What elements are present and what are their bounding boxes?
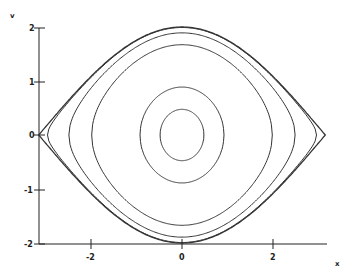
ytick-label: 0 (29, 131, 35, 140)
y-ticks: 2 1 0 -1 -2 (24, 24, 45, 249)
ytick-label: -2 (24, 240, 33, 249)
xtick-label: -2 (86, 253, 95, 262)
separatrix-curve (39, 27, 326, 243)
orbit-curves (39, 27, 326, 243)
x-axis-label: x (335, 260, 340, 268)
phase-portrait-chart: 2 1 0 -1 -2 -2 0 2 v x (0, 0, 345, 272)
orbit-2-curve (140, 87, 224, 183)
ytick-label: 2 (29, 24, 35, 33)
orbit-1-curve (160, 109, 204, 160)
xtick-label: 2 (270, 253, 276, 262)
orbit-3-curve (92, 45, 273, 226)
y-axis-label: v (10, 12, 15, 20)
orbit-5-curve (48, 28, 317, 243)
ytick-label: -1 (24, 186, 33, 195)
ytick-label: 1 (29, 78, 35, 87)
xtick-label: 0 (179, 253, 185, 262)
orbit-4-curve (69, 33, 295, 237)
